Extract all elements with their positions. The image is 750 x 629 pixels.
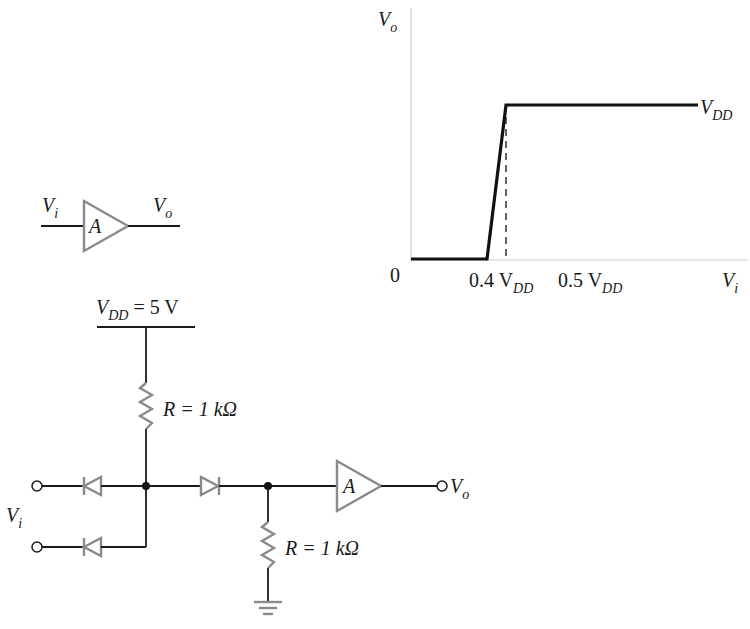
pullup-resistor-label: R = 1 kΩ [162, 398, 237, 420]
diagram-canvas: Vo 0 0.4 VDD 0.5 VDD Vi VDD A Vi Vo VDD … [0, 0, 750, 629]
circuit-buffer-label: A [341, 475, 356, 497]
tick-label-0.5vdd: 0.5 VDD [558, 269, 622, 296]
transfer-graph: Vo 0 0.4 VDD 0.5 VDD Vi VDD [378, 8, 748, 296]
circuit-output-label: Vo [450, 475, 469, 502]
ground-icon [254, 602, 282, 614]
series-vo-line [411, 105, 698, 259]
pulldown-resistor-icon [262, 522, 274, 568]
buffer-output-label: Vo [153, 194, 172, 221]
x-axis-label: Vi [722, 269, 738, 296]
supply-label: VDD = 5 V [96, 296, 179, 323]
buffer-gain-label: A [87, 215, 102, 237]
pulldown-resistor-label: R = 1 kΩ [284, 537, 359, 559]
buffer-symbol: A Vi Vo [41, 194, 180, 251]
plateau-label: VDD [700, 96, 732, 123]
buffer-input-label: Vi [42, 194, 58, 221]
tick-label-0.4vdd: 0.4 VDD [469, 269, 533, 296]
diode-logic-circuit: VDD = 5 V R = 1 kΩ Vi [6, 296, 469, 614]
series-diode-icon [201, 477, 219, 495]
input-diode-2-icon [84, 538, 101, 556]
origin-label: 0 [390, 264, 400, 286]
input-terminal-1 [32, 481, 42, 491]
y-axis-label: Vo [378, 8, 397, 35]
input-terminal-2 [32, 542, 42, 552]
transfer-curve [411, 105, 698, 259]
input-diode-1-icon [84, 477, 101, 495]
pullup-resistor-icon [140, 383, 152, 429]
output-terminal [437, 481, 447, 491]
circuit-input-label: Vi [6, 504, 22, 531]
